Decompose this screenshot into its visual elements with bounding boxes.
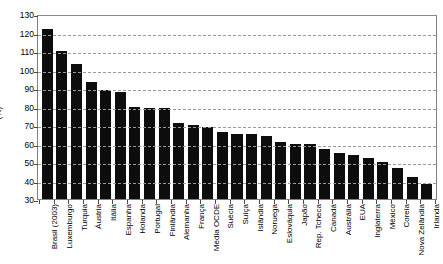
bar[interactable]: [304, 144, 315, 200]
bar-slot: [405, 16, 420, 199]
bar[interactable]: [319, 149, 330, 199]
bar-slot: [40, 16, 55, 199]
bar[interactable]: [348, 155, 359, 199]
bar-slot: [361, 16, 376, 199]
bar[interactable]: [71, 64, 82, 199]
bar-slot: [186, 16, 201, 199]
bar[interactable]: [231, 134, 242, 199]
bar-slot: [419, 16, 434, 199]
x-label-slot: Islândia: [244, 204, 259, 264]
gridline: [38, 35, 436, 36]
bar-slot: [157, 16, 172, 199]
y-tick-label: 120: [12, 29, 34, 38]
x-label-slot: Nova Zelândia: [406, 204, 421, 264]
x-axis-tick-labels: Brasil (2003)LuxemburgoTurquiaÁustriaItá…: [37, 204, 437, 264]
x-label-slot: França: [186, 204, 201, 264]
bar[interactable]: [407, 177, 418, 199]
y-tick-mark: [34, 164, 38, 165]
gridline: [38, 72, 436, 73]
bar-slot: [332, 16, 347, 199]
y-tick-label: 40: [12, 177, 34, 186]
x-label-slot: Suécia: [215, 204, 230, 264]
x-label-slot: Áustria: [83, 204, 98, 264]
y-tick-mark: [34, 127, 38, 128]
gridline: [38, 183, 436, 184]
bar[interactable]: [188, 125, 199, 199]
x-label-slot: Finlândia: [156, 204, 171, 264]
gridline: [38, 164, 436, 165]
y-tick-mark: [34, 53, 38, 54]
y-tick-mark: [34, 90, 38, 91]
bar-series: [38, 16, 436, 199]
bar[interactable]: [129, 107, 140, 200]
bar-slot: [98, 16, 113, 199]
bar-slot: [303, 16, 318, 199]
bar-slot: [128, 16, 143, 199]
y-tick-label: 30: [12, 196, 34, 205]
bar-slot: [376, 16, 391, 199]
bar[interactable]: [290, 144, 301, 200]
bar[interactable]: [217, 132, 228, 199]
bar-slot: [274, 16, 289, 199]
bar[interactable]: [421, 184, 432, 199]
y-tick-mark: [34, 146, 38, 147]
x-label-slot: Itália: [98, 204, 113, 264]
bar-slot: [171, 16, 186, 199]
bar[interactable]: [173, 123, 184, 199]
bar-slot: [113, 16, 128, 199]
y-tick-label: 80: [12, 103, 34, 112]
x-label-slot: Irlanda: [420, 204, 435, 264]
gridline: [38, 90, 436, 91]
bar-slot: [142, 16, 157, 199]
x-label-slot: Média OCDE: [200, 204, 215, 264]
y-tick-label: 50: [12, 159, 34, 168]
gridline: [38, 109, 436, 110]
bar[interactable]: [56, 51, 67, 199]
x-label-slot: Inglaterra: [362, 204, 377, 264]
y-tick-label: 60: [12, 140, 34, 149]
bar[interactable]: [246, 134, 257, 199]
bar-slot: [201, 16, 216, 199]
x-label-slot: Espanha: [112, 204, 127, 264]
gridline: [38, 53, 436, 54]
y-tick-label: 110: [12, 48, 34, 57]
bar-slot: [84, 16, 99, 199]
x-label-slot: Turquia: [68, 204, 83, 264]
gridline: [38, 127, 436, 128]
x-tick-label: Irlanda: [432, 204, 442, 228]
y-tick-mark: [34, 35, 38, 36]
bar[interactable]: [275, 142, 286, 199]
x-label-slot: Canadá: [318, 204, 333, 264]
x-label-slot: Rep. Tcheca: [303, 204, 318, 264]
y-axis-tick-labels: 13012011010090807060504030: [12, 15, 34, 200]
bar[interactable]: [202, 127, 213, 199]
bar[interactable]: [144, 108, 155, 199]
bar-chart: (%) 13012011010090807060504030 Brasil (2…: [0, 0, 443, 264]
x-label-slot: Suíça: [230, 204, 245, 264]
y-tick-mark: [34, 183, 38, 184]
bar-slot: [244, 16, 259, 199]
x-label-slot: Coreia: [391, 204, 406, 264]
x-label-slot: Austrália: [332, 204, 347, 264]
bar[interactable]: [159, 108, 170, 199]
bar[interactable]: [377, 162, 388, 199]
y-tick-mark: [34, 16, 38, 17]
bar-slot: [390, 16, 405, 199]
bar-slot: [230, 16, 245, 199]
y-tick-mark: [34, 109, 38, 110]
x-label-slot: Luxemburgo: [54, 204, 69, 264]
x-label-slot: Alemanha: [171, 204, 186, 264]
bar-slot: [69, 16, 84, 199]
bar-slot: [346, 16, 361, 199]
bar-slot: [55, 16, 70, 199]
plot-area: [37, 15, 437, 200]
bar[interactable]: [334, 153, 345, 199]
x-label-slot: Portugal: [142, 204, 157, 264]
bar-slot: [259, 16, 274, 199]
gridline: [38, 146, 436, 147]
y-tick-label: 100: [12, 66, 34, 75]
x-label-slot: Holanda: [127, 204, 142, 264]
bar[interactable]: [42, 29, 53, 199]
x-label-slot: EUA: [347, 204, 362, 264]
bar-slot: [317, 16, 332, 199]
